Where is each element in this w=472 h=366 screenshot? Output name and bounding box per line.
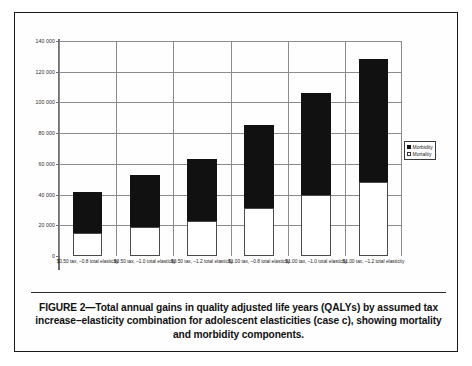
- chart-region: 020 00040 00060 00080 000100 000120 0001…: [15, 13, 459, 291]
- category-separator: [173, 41, 174, 256]
- x-tick-label: $1.00 tax, –1.2 total elasticity: [338, 259, 409, 265]
- bar-segment-mortality: [301, 195, 331, 256]
- stacked-bar: [301, 93, 331, 256]
- y-tick-mark: [56, 256, 59, 257]
- bar-segment-morbidity: [301, 93, 331, 194]
- category-separator: [231, 41, 232, 256]
- y-tick-label: 140 000: [36, 38, 55, 44]
- category-separator: [401, 41, 402, 256]
- figure-caption: FIGURE 2—Total annual gains in quality a…: [31, 301, 446, 341]
- morbidity-swatch-icon: [407, 145, 411, 149]
- category-separator: [59, 41, 60, 256]
- bar-segment-mortality: [244, 208, 274, 256]
- figure-frame: 020 00040 00060 00080 000100 000120 0001…: [14, 12, 458, 352]
- y-tick-label: 120 000: [36, 69, 55, 75]
- legend-item-mortality: Mortality: [407, 151, 433, 158]
- bar-segment-morbidity: [73, 192, 103, 233]
- category-separator: [116, 41, 117, 256]
- bar-segment-mortality: [187, 221, 217, 256]
- stacked-bar: [244, 125, 274, 256]
- bar-segment-mortality: [73, 233, 103, 256]
- category-separator: [288, 41, 289, 256]
- y-tick-label: 80 000: [39, 130, 55, 136]
- stacked-bar: [187, 159, 217, 256]
- bar-segment-morbidity: [244, 125, 274, 208]
- caption-divider: [31, 292, 446, 293]
- bar-segment-mortality: [359, 182, 389, 256]
- stacked-bar: [130, 175, 160, 256]
- legend-label-morbidity: Morbidity: [413, 144, 433, 151]
- y-tick-label: 40 000: [39, 192, 55, 198]
- plot-area: [59, 41, 402, 256]
- bar-segment-mortality: [130, 227, 160, 256]
- stacked-bar: [73, 192, 103, 257]
- legend-label-mortality: Mortality: [413, 151, 432, 158]
- y-tick-label: 60 000: [39, 161, 55, 167]
- bar-segment-morbidity: [359, 59, 389, 182]
- bar-segment-morbidity: [130, 175, 160, 227]
- y-tick-label: 100 000: [36, 99, 55, 105]
- category-separator: [345, 41, 346, 256]
- x-axis-tick-labels: $0.50 tax, –0.8 total elasticity$0.50 ta…: [59, 259, 402, 285]
- stacked-bar: [359, 59, 389, 256]
- y-axis-tick-labels: 020 00040 00060 00080 000100 000120 0001…: [15, 41, 55, 256]
- y-tick-label: 20 000: [39, 222, 55, 228]
- mortality-swatch-icon: [407, 152, 411, 156]
- chart-legend: Morbidity Mortality: [404, 141, 436, 160]
- legend-item-morbidity: Morbidity: [407, 144, 433, 151]
- bar-segment-morbidity: [187, 159, 217, 221]
